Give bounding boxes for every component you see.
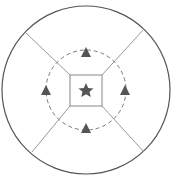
divider-line-top-left bbox=[26, 33, 70, 75]
triangle-icon-top bbox=[81, 47, 91, 57]
triangle-icon-right bbox=[120, 85, 130, 95]
divider-line-bottom-left bbox=[32, 106, 70, 152]
triangle-icon-bottom bbox=[81, 123, 91, 133]
triangle-icon-left bbox=[41, 85, 51, 95]
divider-line-top-right bbox=[102, 29, 144, 75]
divider-line-bottom-right bbox=[102, 106, 144, 152]
zone-diagram bbox=[0, 0, 171, 182]
